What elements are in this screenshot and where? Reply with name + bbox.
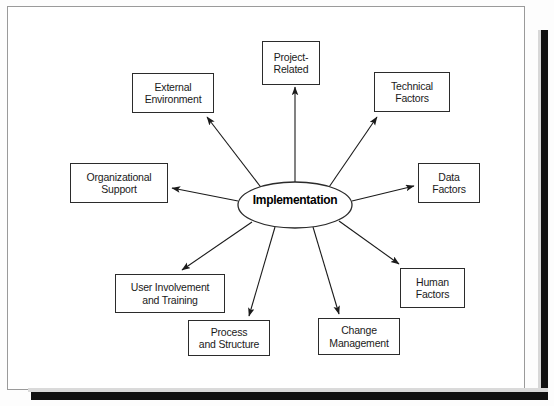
node-box-process-and-structure: Process and Structure — [188, 320, 270, 356]
node-box-data-factors: Data Factors — [418, 163, 480, 203]
node-box-external-environment: External Environment — [132, 73, 214, 113]
node-label-organizational-support: Organizational Support — [84, 171, 155, 196]
node-label-human-factors: Human Factors — [413, 276, 453, 301]
node-box-project-related: Project- Related — [262, 41, 320, 85]
node-label-project-related: Project- Related — [271, 51, 312, 76]
node-label-change-management: Change Management — [326, 324, 391, 349]
node-box-user-involvement-and-training: User Involvement and Training — [115, 274, 225, 313]
spoke-arrow-external-environment — [207, 117, 263, 190]
node-label-technical-factors: Technical Factors — [388, 80, 436, 105]
node-label-process-and-structure: Process and Structure — [196, 326, 262, 351]
node-box-human-factors: Human Factors — [400, 268, 465, 308]
spoke-arrow-human-factors — [339, 221, 399, 264]
scan-shadow-right — [541, 30, 548, 394]
spoke-arrow-data-factors — [352, 186, 414, 201]
spoke-arrow-user-involvement-and-training — [182, 222, 252, 270]
spoke-arrow-change-management — [313, 227, 339, 314]
node-label-user-involvement-and-training: User Involvement and Training — [128, 281, 213, 306]
diagram-page: Implementation Project- RelatedExternal … — [0, 0, 554, 406]
node-box-technical-factors: Technical Factors — [374, 72, 450, 112]
spoke-arrow-process-and-structure — [249, 227, 275, 316]
spoke-arrow-organizational-support — [172, 188, 238, 201]
implementation-hub-label: Implementation — [238, 193, 352, 207]
node-label-data-factors: Data Factors — [429, 171, 469, 196]
spoke-arrow-technical-factors — [327, 117, 377, 190]
node-label-external-environment: External Environment — [142, 81, 205, 106]
scan-shadow-bottom — [31, 392, 548, 400]
node-box-organizational-support: Organizational Support — [70, 163, 168, 203]
node-box-change-management: Change Management — [318, 318, 400, 355]
